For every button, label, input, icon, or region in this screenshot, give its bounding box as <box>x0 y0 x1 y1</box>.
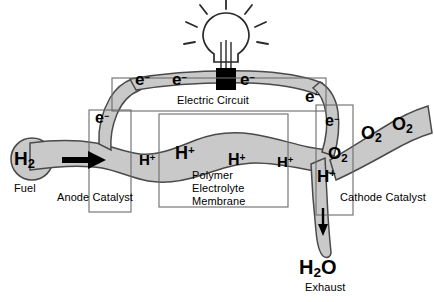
electric-circuit-label: Electric Circuit <box>177 95 249 106</box>
electron-label-4: e− <box>305 88 319 105</box>
o2-label-2: O2 <box>361 124 382 144</box>
exhaust-caption: Exhaust <box>305 282 345 293</box>
proton-label-2: H+ <box>175 144 195 162</box>
cathode-catalyst-label: Cathode Catalyst <box>340 192 426 203</box>
electron-label-5: e− <box>325 113 339 129</box>
electron-label-1: e− <box>135 71 149 88</box>
membrane-label-electrolyte: Electrolyte <box>192 183 244 194</box>
proton-label-1: H+ <box>139 152 155 167</box>
h2-fuel-label: H2 <box>14 149 35 171</box>
fuel-cell-diagram: H2 Fuel Anode Catalyst Electric Circuit … <box>0 0 434 302</box>
fuel-caption: Fuel <box>14 183 36 194</box>
proton-label-4: H+ <box>277 154 293 169</box>
o2-label-1: O2 <box>328 145 348 164</box>
o2-label-3: O2 <box>392 115 413 135</box>
membrane-label-polymer: Polymer <box>192 170 233 181</box>
electron-label-3: e− <box>240 71 254 88</box>
electron-label-2: e− <box>172 71 186 88</box>
anode-catalyst-label: Anode Catalyst <box>57 192 133 203</box>
circuit-load-block <box>216 68 236 90</box>
electron-label-6: e− <box>95 110 109 126</box>
diagram-canvas <box>0 0 434 302</box>
proton-label-3: H+ <box>228 152 246 168</box>
h2o-exhaust-label: H2O <box>299 257 337 280</box>
proton-label-5: H+ <box>317 168 336 185</box>
light-bulb-icon <box>184 0 268 68</box>
membrane-label-membrane: Membrane <box>192 196 245 207</box>
